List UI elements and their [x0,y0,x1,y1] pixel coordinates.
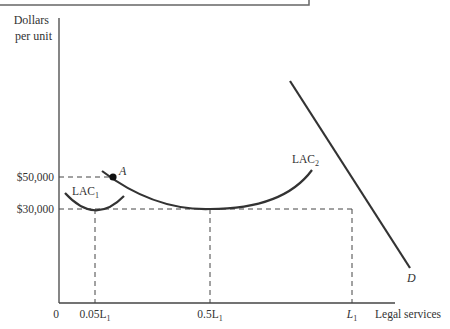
y-axis-label: Dollars per unit [14,13,53,43]
y-tick-30000: $30,000 [17,203,55,216]
x-tick-L1: L1 [346,308,357,323]
point-a-label: A [118,164,127,178]
origin-label: 0 [53,308,59,320]
x-tick-0.5L1: 0.5L1 [197,308,222,323]
x-axis-label: Legal services [375,308,442,321]
demand-label: D [406,271,416,285]
top-frame-border [0,0,309,5]
lac2-curve [102,170,312,209]
y-tick-50000: $50,000 [17,171,55,184]
chart-figure: Dollars per unit $50,000 $30,000 LAC1 LA… [0,0,450,329]
x-tick-0.05L1: 0.05L1 [79,308,110,323]
point-a-marker [109,173,116,180]
lac2-label: LAC2 [292,153,319,168]
lac1-label: LAC1 [72,185,99,200]
